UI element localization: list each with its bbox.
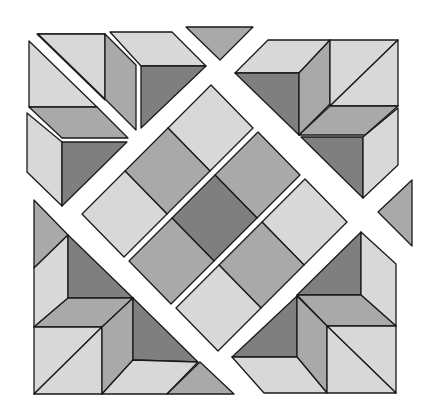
right-triangle [378,180,412,246]
tile-puzzle-diagram [0,0,435,420]
top-center-triangle [186,27,253,60]
